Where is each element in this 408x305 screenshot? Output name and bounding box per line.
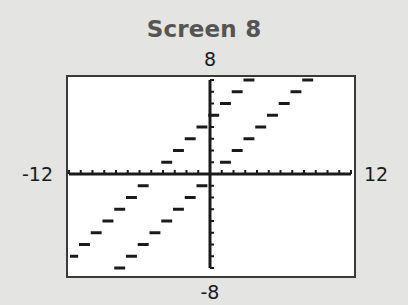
xmax-label: 12 bbox=[364, 165, 388, 184]
ymin-label: -8 bbox=[0, 283, 408, 302]
ymax-label: 8 bbox=[0, 50, 408, 69]
graph-title: Screen 8 bbox=[0, 16, 408, 42]
graph-plot bbox=[68, 77, 354, 276]
calculator-screen bbox=[66, 75, 356, 278]
xmin-label: -12 bbox=[22, 165, 53, 184]
